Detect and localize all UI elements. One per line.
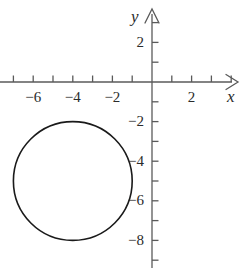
circle-curve (13, 122, 132, 241)
x-axis-label: x (227, 88, 235, 105)
x-tick-label: −6 (25, 90, 41, 105)
plotted-curves (13, 122, 132, 241)
coordinate-plane-svg (0, 0, 242, 268)
x-tick-label: 2 (188, 90, 196, 105)
y-tick-label: −8 (128, 233, 144, 248)
x-axis-ticks (13, 76, 231, 83)
x-tick-label: −4 (65, 90, 81, 105)
y-axis-ticks (152, 23, 159, 261)
y-tick-label: 2 (137, 35, 145, 50)
y-axis-label: y (131, 8, 139, 25)
x-tick-label: −2 (104, 90, 120, 105)
graph-figure: −6−4−222−2−4−6−8 y x (0, 0, 242, 268)
y-tick-label: −4 (128, 154, 144, 169)
y-tick-label: −2 (128, 114, 144, 129)
y-tick-label: −6 (128, 193, 144, 208)
